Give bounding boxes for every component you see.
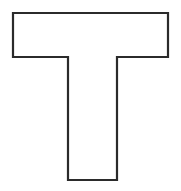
- letter-t-outline-svg: [0, 0, 181, 191]
- image-canvas: [0, 0, 181, 191]
